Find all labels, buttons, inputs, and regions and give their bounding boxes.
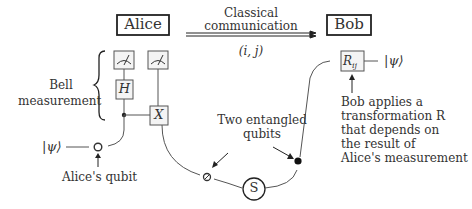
meter-icon (114, 51, 134, 69)
bob-note-line3: that depends on (341, 123, 439, 137)
entangled-label-line1: Two entangled (212, 113, 312, 127)
entangled-label-line2: qubits (212, 127, 312, 141)
bob-note-line1: Bob applies a (341, 95, 423, 109)
source-label: S (243, 181, 265, 195)
x-gate-label: X (150, 108, 168, 122)
output-state: |ψ⟩ (384, 54, 404, 68)
alice-qubit-label: Alice's qubit (62, 170, 137, 184)
bell-label-line1: Bell (26, 78, 96, 92)
input-state: |ψ⟩ (42, 140, 62, 154)
entangled-qubit-alice (204, 174, 211, 181)
channel-payload: (i, j) (226, 44, 276, 58)
bob-label: Bob (327, 17, 371, 31)
bob-note-line4: the result of (341, 137, 415, 151)
channel-label-line2: communication (196, 19, 306, 33)
bell-label-line2: measurement (18, 94, 96, 108)
channel-label-line1: Classical (196, 6, 306, 20)
bob-note-line5: Alice's measurement (341, 151, 468, 165)
meter-icon (148, 51, 168, 69)
alice-label: Alice (117, 17, 169, 31)
entangled-qubit-bob (294, 157, 301, 164)
bob-note-line2: transformation R (341, 109, 445, 123)
alice-qubit-circle (94, 143, 102, 151)
h-gate-label: H (116, 82, 133, 96)
r-gate-label: Rij (343, 54, 357, 73)
